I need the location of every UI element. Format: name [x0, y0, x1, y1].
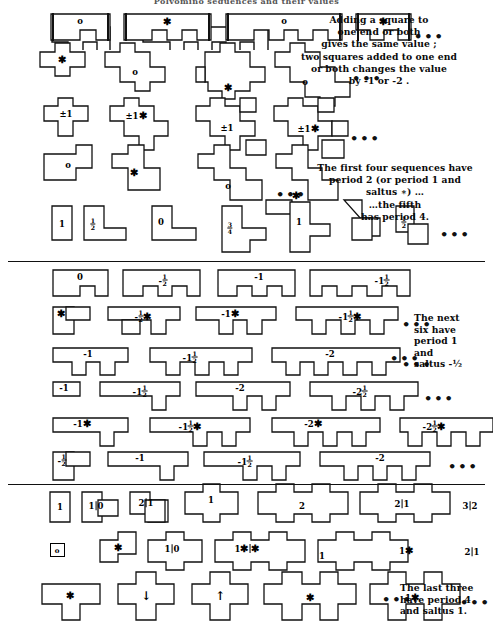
shape-label: -212✱ [423, 420, 446, 433]
shape-label: ✱ [292, 191, 300, 201]
row-ellipsis: ••• [440, 228, 471, 241]
shape-label: ✱ [163, 17, 171, 27]
shape-label: 1✱ [405, 593, 419, 603]
shape-label: -2 [375, 454, 384, 463]
shape-label: o [55, 546, 60, 555]
shape-label: 1 [208, 496, 214, 505]
shape-label: 21 [465, 547, 480, 557]
divider-1 [8, 261, 485, 262]
shape-label: 1 [319, 552, 325, 561]
shape-label: 1✱✱ [235, 544, 260, 554]
shape-label: 0 [77, 273, 83, 282]
shape-label: ±1 [220, 124, 233, 133]
shape-label: -1 [59, 384, 68, 393]
row-ellipsis: ••• [424, 392, 455, 405]
shape-label: -2✱ [304, 419, 321, 429]
shape-label: -2 [235, 384, 244, 393]
divider-2 [8, 484, 485, 485]
shape-label: -1 [135, 454, 144, 463]
shape-label: 2 [299, 502, 305, 511]
shape-label: ✱ [306, 593, 314, 603]
figure-canvas: Polyomino sequences and their values [0, 0, 493, 627]
shape-label: o [302, 78, 308, 87]
shape-label: -112 [133, 385, 148, 398]
note-ellipsis: ••• [390, 352, 421, 365]
shape-label: ✱ [114, 543, 122, 553]
shape-label: 1✱ [399, 546, 413, 556]
note-next-six: The next six have period 1 and saltus -½ [414, 312, 492, 370]
shape-label: -112✱ [179, 420, 202, 433]
shape-label: -1✱ [73, 419, 90, 429]
shape-label: o [225, 182, 231, 191]
shape-label: 21 [139, 498, 154, 508]
shape-label: -112✱ [339, 310, 362, 323]
shape-label: 21 [395, 499, 410, 509]
shape-label: ↑ [215, 590, 225, 602]
shape-label: 34 [227, 222, 232, 235]
row-ellipsis: ••• [350, 132, 381, 145]
shape-label: o [65, 161, 71, 170]
shape-label: -112 [183, 351, 198, 364]
shape-label: 12 [90, 218, 95, 231]
shape-label: -1 [83, 350, 92, 359]
shape-label: 10 [89, 501, 104, 511]
shape-label: 1 [59, 220, 65, 229]
shape-label: ↓ [141, 590, 151, 602]
row-ellipsis: ••• [448, 460, 479, 473]
shape-label: 0 [158, 218, 164, 227]
shape-label: -12 [58, 454, 67, 467]
note-period-two: The first four sequences have period 2 (… [300, 162, 490, 223]
shape-label: -1 [254, 273, 263, 282]
shape-label: ✱ [66, 591, 74, 601]
shape-label: -2 [325, 350, 334, 359]
shape-label: -12✱ [135, 310, 152, 323]
shape-label: ✱ [224, 83, 232, 93]
shape-label: -12 [159, 274, 168, 287]
shape-label: o [281, 17, 287, 26]
shape-label: ±1✱ [125, 111, 146, 121]
shape-label: -112 [375, 274, 390, 287]
shape-label: 10 [165, 544, 180, 554]
shape-label: -112 [238, 455, 253, 468]
shape-label: ✱ [130, 168, 138, 178]
shape-label: ✱ [57, 309, 65, 319]
shape-label: 32 [463, 501, 478, 511]
shape-label: -212 [353, 385, 368, 398]
shape-label: 12 [401, 216, 406, 229]
shape-label: 1 [296, 218, 302, 227]
shape-label: o [132, 68, 138, 77]
shape-label: ±1 [59, 110, 72, 119]
shape-label: ✱ [379, 17, 387, 27]
shape-label: ✱ [58, 55, 66, 65]
shape-label: -1✱ [221, 309, 238, 319]
shape-label: ±1✱ [297, 124, 318, 134]
shape-label: o [77, 17, 83, 26]
shape-label: 1 [57, 503, 63, 512]
